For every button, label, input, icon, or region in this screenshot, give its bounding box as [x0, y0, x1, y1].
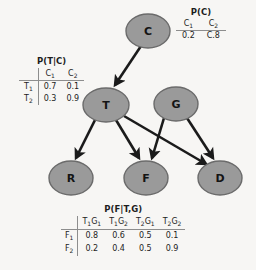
column-header-c1: C1 [38, 68, 61, 81]
cpt-p-of-f-given-t-g-grid: T1G1 T1G2 T2G1 T2G2 F1 0.8 0.6 0.5 0.1 F… [61, 216, 185, 256]
node-r[interactable]: R [49, 161, 93, 195]
node-g-label: G [171, 98, 180, 111]
node-c-label: C [144, 25, 152, 38]
cell-t1-c1: 0.7 [38, 80, 61, 93]
edge-t-to-f [116, 120, 139, 158]
row-header-t2: T2 [19, 93, 38, 105]
node-r-label: R [67, 172, 76, 185]
cpt-p-of-c-title: P(C) [176, 8, 226, 17]
column-header-c1: C1 [176, 19, 201, 31]
cpt-p-of-c-grid: C1 C2 0.2 C.8 [176, 19, 226, 42]
cpt-p-of-f-given-t-g: P(F|T,G) T1G1 T1G2 T2G1 T2G2 F1 0.8 0.6 … [61, 205, 185, 256]
cell-f2-t2g1: 0.5 [132, 243, 159, 256]
cell-f1-t1g1: 0.8 [78, 229, 105, 243]
cell-t2-c2: 0.9 [61, 93, 84, 105]
cell-f1-t2g1: 0.5 [132, 229, 159, 243]
column-header-t1g1: T1G1 [78, 216, 105, 230]
table-row: T1 0.7 0.1 [19, 80, 84, 93]
table-corner [61, 216, 78, 230]
node-d-label: D [215, 172, 224, 185]
edge-c-to-t [115, 46, 141, 85]
table-row: F1 0.8 0.6 0.5 0.1 [61, 229, 185, 243]
node-f[interactable]: F [124, 161, 168, 195]
cpt-p-of-t-given-c-title: P(T|C) [19, 57, 84, 66]
table-corner [19, 68, 38, 81]
cell-t1-c2: 0.1 [61, 80, 84, 93]
node-f-label: F [142, 172, 150, 185]
node-g[interactable]: G [154, 87, 198, 121]
node-c[interactable]: C [126, 14, 170, 48]
cpt-p-of-f-given-t-g-title: P(F|T,G) [61, 205, 185, 214]
cell-f2-t1g1: 0.2 [78, 243, 105, 256]
column-header-c2: C2 [61, 68, 84, 81]
column-header-t2g1: T2G1 [132, 216, 159, 230]
edge-t-to-r [76, 120, 95, 158]
edge-g-to-d [187, 118, 213, 158]
table-row: 0.2 C.8 [176, 30, 226, 42]
cpt-p-of-t-given-c: P(T|C) C1 C2 T1 0.7 0.1 T2 0.3 0.9 [19, 57, 84, 105]
cell-f2-t1g2: 0.4 [105, 243, 132, 256]
diagram-canvas: C T G R F D P(C) [0, 0, 256, 270]
cell-p-c2: C.8 [201, 30, 226, 42]
table-header-row: T1G1 T1G2 T2G1 T2G2 [61, 216, 185, 230]
cell-p-c1: 0.2 [176, 30, 201, 42]
column-header-t1g2: T1G2 [105, 216, 132, 230]
column-header-t2g2: T2G2 [159, 216, 186, 230]
cell-f1-t2g2: 0.1 [159, 229, 186, 243]
row-header-f1: F1 [61, 229, 78, 243]
node-t[interactable]: T [83, 88, 129, 122]
table-row: T2 0.3 0.9 [19, 93, 84, 105]
table-header-row: C1 C2 [176, 19, 226, 31]
table-row: F2 0.2 0.4 0.5 0.9 [61, 243, 185, 256]
node-d[interactable]: D [198, 161, 242, 195]
column-header-c2: C2 [201, 19, 226, 31]
edge-t-to-d [124, 116, 206, 164]
cpt-p-of-t-given-c-grid: C1 C2 T1 0.7 0.1 T2 0.3 0.9 [19, 68, 84, 105]
cell-f1-t1g2: 0.6 [105, 229, 132, 243]
node-t-label: T [102, 99, 110, 112]
cpt-p-of-c: P(C) C1 C2 0.2 C.8 [176, 8, 226, 42]
cell-t2-c1: 0.3 [38, 93, 61, 105]
row-header-t1: T1 [19, 80, 38, 93]
row-header-f2: F2 [61, 243, 78, 256]
cell-f2-t2g2: 0.9 [159, 243, 186, 256]
table-header-row: C1 C2 [19, 68, 84, 81]
